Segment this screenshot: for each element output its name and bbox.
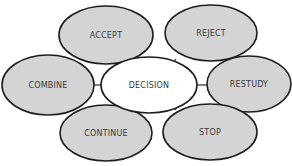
continue-label: CONTINUE: [84, 129, 128, 138]
decision-diagram: ACCEPT REJECT COMBINE RESTUDY CONTINUE S…: [0, 0, 292, 166]
outcome-continue: CONTINUE: [60, 105, 152, 161]
outcome-stop: STOP: [163, 104, 257, 160]
restudy-label: RESTUDY: [230, 80, 268, 89]
outcome-restudy: RESTUDY: [207, 56, 291, 112]
outcome-reject: REJECT: [165, 5, 257, 61]
outcome-combine: COMBINE: [2, 55, 94, 115]
reject-label: REJECT: [196, 29, 226, 38]
outcome-accept: ACCEPT: [59, 6, 153, 64]
combine-label: COMBINE: [28, 81, 67, 90]
accept-label: ACCEPT: [90, 31, 122, 40]
center-decision: DECISION: [101, 57, 197, 113]
decision-label: DECISION: [129, 81, 169, 90]
stop-label: STOP: [199, 128, 221, 137]
